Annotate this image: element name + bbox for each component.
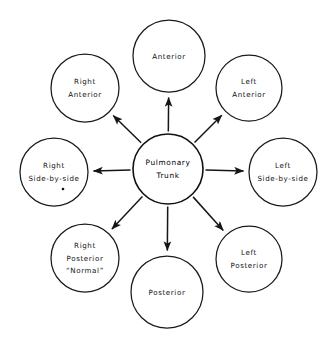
node-label-line: Side-by-side [28, 174, 79, 183]
node-label-line: Posterior [231, 261, 268, 270]
node-right-anterior[interactable]: RightAnterior [51, 54, 119, 122]
node-anterior[interactable]: Anterior [133, 20, 205, 92]
node-left-side-by-side[interactable]: LeftSide-by-side [249, 138, 317, 206]
center-circle [133, 134, 203, 204]
node-label-line: Right [74, 77, 96, 86]
arrow-to-right-posterior [112, 196, 142, 229]
node-circle-left-anterior [216, 55, 282, 121]
footnote-marker-icon [62, 188, 65, 191]
node-label-line: Pulmonary [146, 158, 191, 167]
node-label-line: Anterior [68, 90, 102, 99]
arrow-to-left-side-by-side [205, 170, 243, 171]
node-circle-right-anterior [51, 54, 119, 122]
node-label-line: Left [241, 248, 257, 257]
node-posterior[interactable]: Posterior [131, 256, 203, 328]
node-circle-left-side-by-side [249, 138, 317, 206]
node-label-line: Left [275, 161, 291, 170]
diagram-canvas: AnteriorLeftAnteriorLeftSide-by-sideLeft… [0, 0, 336, 338]
node-label-line: Posterior [149, 288, 186, 297]
node-label-line: Right [43, 161, 65, 170]
node-label-line: Left [241, 77, 257, 86]
arrow-to-right-side-by-side [93, 170, 130, 171]
arrow-to-right-anterior [113, 116, 141, 143]
node-label-line: “Normal” [66, 266, 104, 275]
node-left-anterior[interactable]: LeftAnterior [216, 55, 282, 121]
node-label-line: Anterior [152, 52, 186, 61]
arrow-to-left-anterior [195, 115, 222, 142]
arrow-to-left-posterior [193, 197, 223, 231]
node-left-posterior[interactable]: LeftPosterior [216, 226, 282, 292]
node-label-line: Anterior [232, 90, 266, 99]
center-node-layer: PulmonaryTrunk [133, 134, 203, 204]
node-right-posterior-normal[interactable]: RightPosterior“Normal” [51, 224, 119, 292]
node-label-line: Right [74, 241, 96, 250]
radial-diagram: AnteriorLeftAnteriorLeftSide-by-sideLeft… [0, 0, 336, 338]
node-label-line: Posterior [67, 254, 104, 263]
node-pulmonary-trunk[interactable]: PulmonaryTrunk [133, 134, 203, 204]
node-label-line: Trunk [155, 171, 179, 180]
node-circle-left-posterior [216, 226, 282, 292]
node-circle-right-side-by-side [20, 138, 88, 206]
node-right-side-by-side[interactable]: RightSide-by-side [20, 138, 88, 206]
node-label-line: Side-by-side [257, 174, 308, 183]
